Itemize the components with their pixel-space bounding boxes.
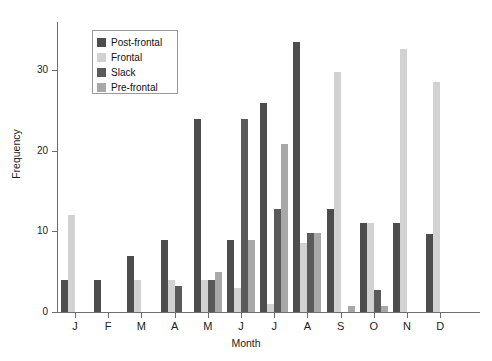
bar (201, 280, 208, 312)
legend-item: Frontal (97, 50, 177, 65)
bar (168, 280, 175, 312)
bar (208, 280, 215, 312)
bar (374, 290, 381, 312)
bar (393, 223, 400, 312)
x-tick-label: N (395, 320, 419, 332)
y-axis-title: Frequency (10, 114, 22, 194)
bar (248, 240, 255, 313)
bar (274, 209, 281, 312)
legend-label: Frontal (111, 53, 142, 63)
x-tick-label: J (262, 320, 286, 332)
y-tick-label: 0 (24, 307, 48, 317)
legend-label: Slack (111, 68, 135, 78)
y-tick (52, 312, 57, 313)
bar (281, 144, 288, 312)
x-tick-label: S (329, 320, 353, 332)
y-tick-label: 30 (24, 65, 48, 75)
bar (367, 223, 374, 312)
legend-swatch-pre-frontal (97, 83, 106, 92)
bar (300, 243, 307, 312)
bar (215, 272, 222, 312)
bar (94, 280, 101, 312)
legend-swatch-frontal (97, 53, 106, 62)
bar (175, 286, 182, 312)
x-tick-label: D (428, 320, 452, 332)
x-tick-label: J (63, 320, 87, 332)
legend-swatch-post-frontal (97, 38, 106, 47)
bar (61, 280, 68, 312)
x-axis-title: Month (0, 337, 492, 349)
bar (260, 103, 267, 312)
x-tick-label: O (362, 320, 386, 332)
bar (433, 82, 440, 312)
x-tick (141, 313, 142, 318)
legend-swatch-slack (97, 68, 106, 77)
plot-area (0, 0, 492, 312)
x-tick-label: A (295, 320, 319, 332)
bar (400, 49, 407, 312)
bar (360, 223, 367, 312)
x-tick-label: F (96, 320, 120, 332)
x-tick (208, 313, 209, 318)
bar (234, 288, 241, 312)
legend-item: Post-frontal (97, 35, 177, 50)
x-tick (440, 313, 441, 318)
chart-legend: Post-frontal Frontal Slack Pre-frontal (92, 30, 178, 94)
x-tick-label: J (229, 320, 253, 332)
y-tick-label: 20 (24, 146, 48, 156)
bar-chart: 0102030 JFMAMJJASOND Frequency Month Pos… (0, 0, 492, 361)
x-tick (274, 313, 275, 318)
y-tick (52, 151, 57, 152)
x-tick (108, 313, 109, 318)
x-tick (307, 313, 308, 318)
bar (293, 42, 300, 312)
x-tick (75, 313, 76, 318)
legend-item: Pre-frontal (97, 80, 177, 95)
bar (127, 256, 134, 312)
x-tick (175, 313, 176, 318)
bar (194, 119, 201, 312)
bar (314, 233, 321, 312)
bar (161, 240, 168, 313)
x-tick-label: M (196, 320, 220, 332)
x-tick (341, 313, 342, 318)
bar (426, 234, 433, 312)
x-tick-label: M (129, 320, 153, 332)
bar (227, 240, 234, 313)
y-tick (52, 70, 57, 71)
legend-label: Post-frontal (111, 38, 162, 48)
y-tick-label: 10 (24, 226, 48, 236)
bar (327, 209, 334, 312)
bar (267, 304, 274, 312)
legend-item: Slack (97, 65, 177, 80)
bar (68, 215, 75, 312)
bar (334, 72, 341, 312)
x-tick (374, 313, 375, 318)
x-axis-line (57, 312, 480, 313)
bar (307, 233, 314, 312)
bar (241, 119, 248, 312)
legend-label: Pre-frontal (111, 83, 158, 93)
bar (134, 280, 141, 312)
x-tick (407, 313, 408, 318)
x-tick (241, 313, 242, 318)
y-axis-line (57, 22, 58, 313)
x-tick-label: A (163, 320, 187, 332)
y-tick (52, 231, 57, 232)
